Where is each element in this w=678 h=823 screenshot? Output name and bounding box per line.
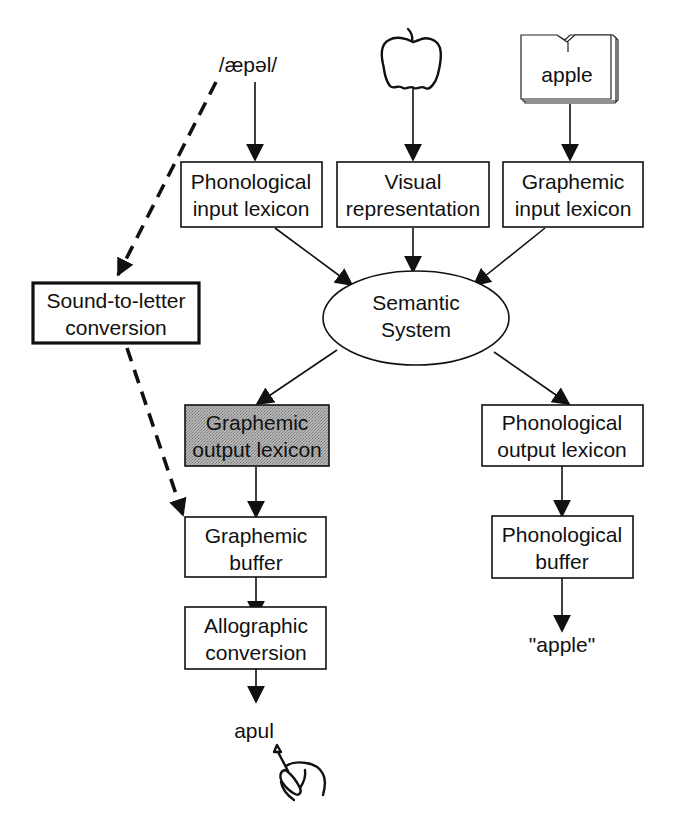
written-output: apul: [234, 719, 325, 800]
node-label-line: conversion: [65, 316, 167, 339]
node-label-line: System: [381, 318, 451, 341]
node-phonological-buffer: Phonological buffer: [492, 516, 633, 578]
edge-graph-input-to-semantic: [474, 228, 545, 285]
node-label-line: representation: [346, 197, 480, 220]
node-semantic-system: Semantic System: [323, 271, 509, 365]
node-graph-input-lexicon: Graphemic input lexicon: [503, 162, 643, 227]
node-visual-representation: Visual representation: [337, 162, 489, 227]
edge-sound-to-letter-to-buffer: [127, 348, 183, 515]
node-label-line: input lexicon: [193, 197, 310, 220]
node-label-line: Phonological: [502, 523, 622, 546]
node-phon-input-lexicon: Phonological input lexicon: [181, 162, 322, 227]
picture-input: [382, 29, 441, 89]
node-phon-output-lexicon: Phonological output lexicon: [482, 405, 643, 466]
node-label-line: Visual: [385, 170, 442, 193]
node-label-line: input lexicon: [515, 197, 632, 220]
book-icon: apple: [521, 35, 618, 103]
node-label-line: Graphemic: [206, 411, 309, 434]
spoken-output: "apple": [529, 633, 595, 656]
written-output-label: apul: [234, 719, 274, 742]
spoken-input-label: /æpəl/: [219, 53, 278, 76]
node-allographic-conversion: Allographic conversion: [185, 607, 326, 669]
edge-semantic-to-phon-output: [494, 352, 569, 404]
node-label-line: output lexicon: [192, 438, 322, 461]
node-label-line: buffer: [535, 550, 588, 573]
edge-semantic-to-graph-output: [257, 350, 337, 404]
node-label-line: Phonological: [191, 170, 311, 193]
written-input-label: apple: [541, 63, 592, 86]
node-label-line: buffer: [229, 551, 282, 574]
spelling-model-diagram: /æpəl/ apple Phonological input lexicon …: [0, 0, 678, 823]
node-graph-output-lexicon: Graphemic output lexicon: [185, 405, 329, 466]
node-sound-to-letter: Sound-to-letter conversion: [33, 283, 199, 343]
node-label-line: Phonological: [502, 411, 622, 434]
apple-icon: [382, 29, 441, 89]
edge-phon-input-to-semantic: [275, 228, 352, 285]
written-input: apple: [521, 35, 618, 103]
node-label-line: Graphemic: [522, 170, 625, 193]
node-label-line: output lexicon: [497, 438, 627, 461]
node-label-line: Graphemic: [205, 524, 308, 547]
node-label-line: Semantic: [372, 291, 460, 314]
node-label-line: conversion: [205, 641, 307, 664]
node-label-line: Allographic: [204, 614, 308, 637]
spoken-output-label: "apple": [529, 633, 595, 656]
spoken-input: /æpəl/: [219, 53, 278, 76]
writing-hand-icon: [274, 745, 325, 800]
node-graphemic-buffer: Graphemic buffer: [185, 517, 326, 577]
node-label-line: Sound-to-letter: [47, 289, 186, 312]
